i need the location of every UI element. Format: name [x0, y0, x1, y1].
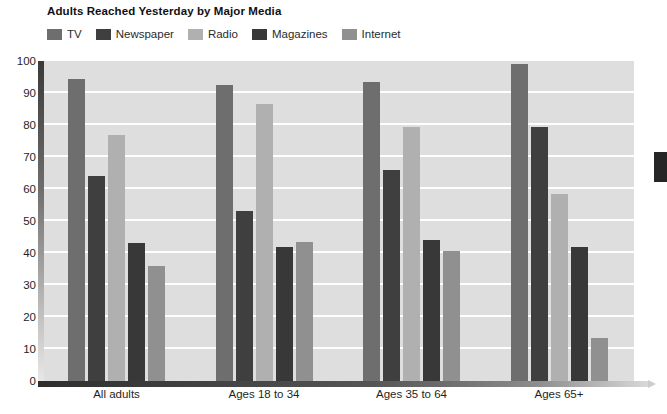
- x-axis-tick-label: Ages 35 to 64: [376, 388, 447, 400]
- legend-label: TV: [67, 28, 82, 40]
- bar[interactable]: [511, 64, 528, 381]
- chart-title: Adults Reached Yesterday by Major Media: [47, 5, 281, 17]
- bar[interactable]: [236, 211, 253, 381]
- legend-swatch-icon: [252, 29, 267, 40]
- legend-item[interactable]: TV: [47, 28, 82, 40]
- bar[interactable]: [148, 266, 165, 381]
- y-axis-tick-label: 10: [4, 343, 36, 355]
- bar[interactable]: [256, 104, 273, 381]
- x-axis-tick-labels: All adultsAges 18 to 34Ages 35 to 64Ages…: [44, 388, 634, 408]
- bar[interactable]: [571, 247, 588, 381]
- right-edge-marker: [654, 152, 667, 182]
- bar[interactable]: [216, 85, 233, 381]
- legend-label: Newspaper: [116, 28, 174, 40]
- bar[interactable]: [108, 135, 125, 381]
- y-axis-tick-label: 80: [4, 119, 36, 131]
- legend-label: Magazines: [272, 28, 328, 40]
- y-axis-tick-label: 90: [4, 87, 36, 99]
- y-axis-tick-label: 0: [4, 375, 36, 387]
- legend-swatch-icon: [96, 29, 111, 40]
- y-axis-tick-labels: 1009080706050403020100: [0, 61, 36, 381]
- bar[interactable]: [443, 251, 460, 381]
- legend-label: Radio: [208, 28, 238, 40]
- y-axis-tick-label: 30: [4, 279, 36, 291]
- legend-swatch-icon: [47, 29, 62, 40]
- bar-chart: Adults Reached Yesterday by Major Media …: [0, 0, 667, 414]
- bar[interactable]: [403, 127, 420, 381]
- bar[interactable]: [531, 127, 548, 381]
- bar[interactable]: [551, 194, 568, 381]
- bar[interactable]: [423, 240, 440, 381]
- y-axis-tick-label: 20: [4, 311, 36, 323]
- bar-group: [216, 61, 313, 381]
- bar[interactable]: [276, 247, 293, 381]
- y-axis-tick-label: 60: [4, 183, 36, 195]
- bar[interactable]: [296, 242, 313, 381]
- bar-group: [363, 61, 460, 381]
- legend-item[interactable]: Radio: [188, 28, 238, 40]
- x-axis-line: [38, 381, 648, 387]
- legend-swatch-icon: [188, 29, 203, 40]
- y-axis-tick-label: 100: [4, 55, 36, 67]
- y-axis-tick-label: 70: [4, 151, 36, 163]
- chart-legend: TVNewspaperRadioMagazinesInternet: [47, 26, 415, 42]
- bar[interactable]: [363, 82, 380, 381]
- bar[interactable]: [88, 176, 105, 381]
- y-axis-tick-label: 50: [4, 215, 36, 227]
- x-axis-tick-label: Ages 65+: [535, 388, 584, 400]
- legend-item[interactable]: Magazines: [252, 28, 328, 40]
- bar-group: [68, 61, 165, 381]
- legend-swatch-icon: [342, 29, 357, 40]
- legend-item[interactable]: Newspaper: [96, 28, 174, 40]
- legend-label: Internet: [362, 28, 401, 40]
- y-axis-tick-label: 40: [4, 247, 36, 259]
- plot-area: [44, 61, 634, 381]
- bar[interactable]: [591, 338, 608, 381]
- bar[interactable]: [128, 243, 145, 381]
- legend-item[interactable]: Internet: [342, 28, 401, 40]
- x-axis-tick-label: Ages 18 to 34: [229, 388, 300, 400]
- x-axis-tick-label: All adults: [93, 388, 140, 400]
- bar[interactable]: [383, 170, 400, 381]
- bar-group: [511, 61, 608, 381]
- bar[interactable]: [68, 79, 85, 381]
